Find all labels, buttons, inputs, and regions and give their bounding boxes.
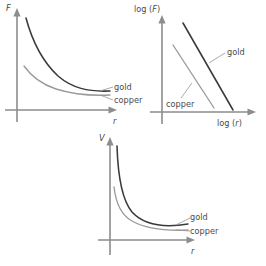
gold-label-leader [209, 53, 225, 63]
figure-root: gold copper F r gold copper [0, 0, 266, 266]
panel-potential-vs-r: gold copper V r [66, 130, 202, 266]
series-label-gold: gold [190, 212, 208, 222]
y-axis-label: log (F) [134, 4, 160, 14]
force-vs-r-chart: gold copper F r [0, 0, 133, 133]
y-axis-arrowhead [158, 15, 165, 24]
x-axis-arrowhead [109, 106, 118, 113]
x-axis-label: r [191, 246, 195, 256]
y-axis-label: V [99, 133, 106, 143]
line-gold [183, 23, 233, 110]
y-axis-arrowhead [106, 137, 113, 146]
x-axis-arrowhead [248, 108, 257, 115]
y-axis-arrowhead [13, 8, 20, 17]
y-axis-label-suffix: ) [157, 4, 160, 14]
logF-vs-logr-chart: gold copper log (F) log (r) [133, 0, 266, 133]
copper-label-leader [181, 83, 192, 98]
y-axis-label-prefix: log ( [134, 4, 152, 14]
x-axis-label: r [113, 116, 117, 126]
series-label-copper: copper [166, 99, 195, 109]
panel-force-vs-r: gold copper F r [0, 0, 133, 133]
series-label-copper: copper [190, 226, 219, 236]
y-axis-label: F [6, 3, 11, 13]
x-axis-arrowhead [187, 236, 196, 243]
series-label-gold: gold [227, 47, 245, 57]
potential-vs-r-chart: gold copper V r [66, 130, 202, 266]
x-axis-label-suffix: ) [239, 118, 242, 128]
curve-gold [117, 146, 188, 226]
series-label-gold: gold [114, 82, 132, 92]
panel-logF-vs-logr: gold copper log (F) log (r) [133, 0, 266, 133]
x-axis-label-prefix: log ( [217, 118, 235, 128]
x-axis-label: log (r) [217, 118, 242, 128]
